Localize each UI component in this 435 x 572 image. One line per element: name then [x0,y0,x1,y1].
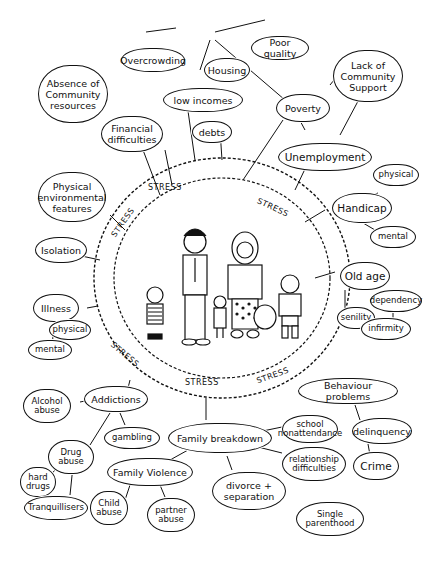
node-divorce-separation: divorce + separation [212,472,286,510]
node-family-violence: Family Violence [107,458,193,486]
node-unemployment: Unemployment [278,143,372,171]
node-mental-illness: mental [28,340,72,360]
node-isolation: Isolation [35,237,87,263]
node-dependency: dependency [370,290,422,312]
node-handicap: Handicap [332,193,392,223]
node-overcrowding: Overcrowding [121,48,185,72]
node-low-incomes: low incomes [163,88,243,112]
node-behaviour-problems: Behaviour problems [298,378,398,404]
node-child-abuse: Child abuse [90,491,128,525]
node-housing: Housing [204,58,250,82]
node-alcohol-abuse: Alcohol abuse [23,389,71,423]
node-physical-environmental-features: Physical environmental features [38,172,106,222]
node-hard-drugs: hard drugs [20,467,56,497]
node-absence-community-resources: Absence of Community resources [38,65,108,123]
node-physical-handicap: physical [373,164,419,186]
node-school-nonattendance: school nonattendance [282,415,338,443]
node-addictions: Addictions [84,386,148,412]
stress-mind-map: STRESS STRESS STRESS STRESS STRESS STRES… [0,0,435,572]
node-old-age: Old age [340,262,390,290]
family-illustration [140,220,305,350]
node-delinquency: delinquency [352,418,412,444]
node-illness: Illness [33,294,79,322]
node-infirmity: infirmity [361,318,411,340]
node-gambling: gambling [104,427,160,449]
stress-label: STRESS [185,378,219,387]
node-mental-handicap: mental [370,226,416,248]
stress-label: STRESS [148,183,182,192]
node-partner-abuse: partner abuse [147,498,195,532]
node-financial-difficulties: Financial difficulties [101,116,163,152]
node-lack-community-support: Lack of Community Support [333,50,403,102]
node-relationship-difficulties: relationship difficulties [282,447,346,481]
node-debts: debts [192,121,232,143]
node-tranquillisers: Tranquillisers [24,496,88,520]
node-drug-abuse: Drug abuse [48,440,94,474]
node-crime: Crime [353,452,399,480]
node-poverty: Poverty [276,94,330,122]
node-single-parenthood: Single parenthood [296,502,364,536]
node-physical-illness: physical [49,320,91,340]
node-family-breakdown: Family breakdown [168,423,272,453]
node-poor-quality: Poor quality [251,36,309,60]
